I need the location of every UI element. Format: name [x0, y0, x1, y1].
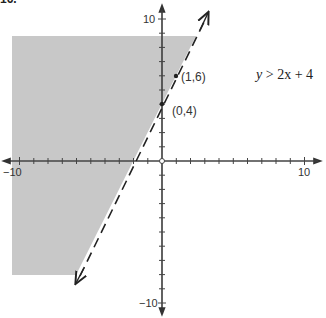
- x-min-label: −10: [3, 166, 22, 178]
- equation-rhs: 2x + 4: [277, 67, 313, 82]
- x-max-label: 10: [298, 166, 310, 178]
- y-max-label: 10: [143, 13, 155, 25]
- point-label-1-6: (1,6): [181, 70, 206, 84]
- point-label-0-4: (0,4): [172, 104, 197, 118]
- shaded-region: [12, 36, 196, 275]
- point-0-4: [160, 102, 164, 106]
- inequality-graph: [0, 0, 326, 318]
- point-1-6: [174, 74, 178, 78]
- equation-op: >: [266, 67, 274, 82]
- origin-marker: [160, 159, 165, 164]
- equation-label: y > 2x + 4: [256, 67, 313, 83]
- equation-lhs: y: [256, 67, 262, 82]
- y-min-label: −10: [139, 297, 158, 309]
